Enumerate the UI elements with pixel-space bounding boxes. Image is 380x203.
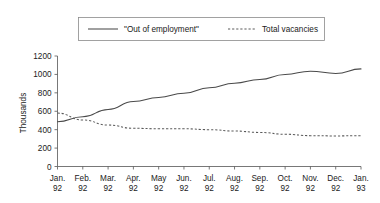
- y-tick-label: 200: [38, 144, 52, 153]
- x-tick-label: Nov.92: [302, 174, 318, 193]
- x-tick-label: May92: [151, 174, 167, 193]
- x-tick-label: Jan.92: [50, 174, 65, 193]
- x-tick-label: Jun.92: [176, 174, 191, 193]
- x-tick-label: Oct.92: [278, 174, 293, 193]
- axes: [55, 56, 362, 170]
- x-tick-label: Sep.92: [251, 174, 268, 193]
- legend-label-out-of-employment: "Out of employment": [124, 25, 199, 34]
- y-axis-ticks: [55, 56, 58, 167]
- y-tick-label: 800: [38, 89, 52, 98]
- y-axis-title: Thousands: [19, 93, 28, 134]
- x-tick-label: Apr.92: [126, 174, 141, 193]
- y-axis-tick-labels: 020040060080010001200: [33, 52, 52, 172]
- x-tick-label: Mar.92: [100, 174, 116, 193]
- legend: "Out of employment" Total vacancies: [79, 18, 325, 41]
- series-layer: [58, 69, 362, 136]
- y-tick-label: 1200: [33, 52, 52, 61]
- x-axis-tick-labels: Jan.92Feb.92Mar.92Apr.92May92Jun.92Jul.9…: [50, 174, 369, 193]
- line-chart: "Out of employment" Total vacancies 0200…: [0, 0, 380, 203]
- x-tick-label: Jan.93: [353, 174, 368, 193]
- series-line-out-of-employment: [58, 69, 362, 122]
- x-tick-label: Feb.92: [75, 174, 91, 193]
- x-tick-label: Jul.92: [203, 174, 216, 193]
- x-tick-label: Aug.92: [226, 174, 243, 193]
- chart-container: "Out of employment" Total vacancies 0200…: [0, 0, 380, 203]
- y-tick-label: 1000: [33, 70, 52, 79]
- legend-label-total-vacancies: Total vacancies: [262, 25, 318, 34]
- y-tick-label: 0: [47, 163, 52, 172]
- x-tick-label: Dec.92: [327, 174, 344, 193]
- x-axis-ticks: [58, 167, 362, 170]
- series-line-total-vacancies: [58, 113, 362, 136]
- y-tick-label: 600: [38, 107, 52, 116]
- y-tick-label: 400: [38, 126, 52, 135]
